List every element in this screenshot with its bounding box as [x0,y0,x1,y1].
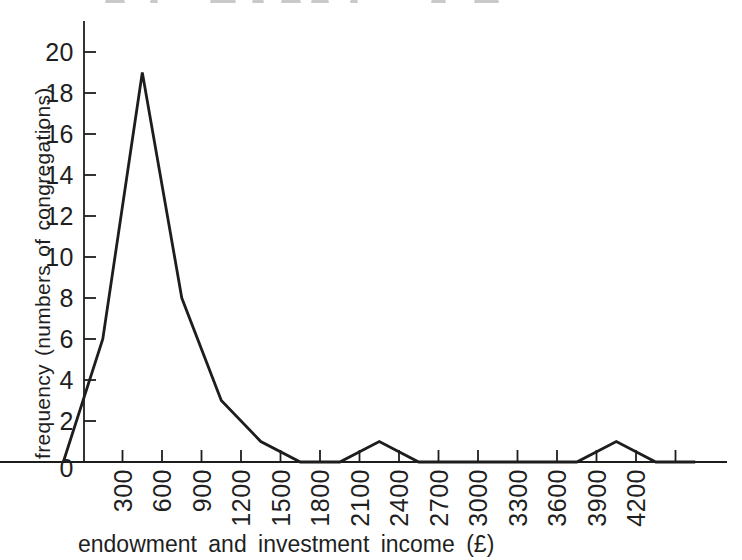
x-tick-label: 1800 [306,469,334,527]
y-tick-label: 20 [45,38,74,66]
frequency-polygon-chart: endowment and investment income (£) freq… [0,0,742,560]
y-tick-label: 8 [60,284,74,312]
y-tick-label: 2 [60,407,74,435]
x-tick-label: 900 [188,469,216,512]
scanned-figure-page: endowment and investment income (£) freq… [0,0,742,560]
x-tick-label: 3600 [543,469,571,527]
y-tick-label: 18 [45,79,74,107]
x-tick-label: 2700 [425,469,453,527]
x-tick-label: 1200 [227,469,255,527]
x-tick-label: 3300 [504,469,532,527]
x-tick-label: 2400 [385,469,413,527]
y-tick-label: 4 [60,366,74,394]
x-tick-label: 2100 [346,469,374,527]
y-tick-label: 0 [60,454,74,482]
y-tick-label: 14 [45,161,74,189]
x-tick-label: 600 [148,469,176,512]
y-tick-label: 16 [45,120,74,148]
x-tick-label: 1500 [267,469,295,527]
x-tick-label: 3000 [464,469,492,527]
y-tick-label: 6 [60,325,74,353]
x-tick-label: 3900 [583,469,611,527]
frequency-polygon-line [63,73,695,463]
y-tick-label: 10 [45,243,74,271]
x-tick-label: 4200 [622,469,650,527]
x-tick-label: 300 [109,469,137,512]
x-axis-title: endowment and investment income (£) [78,531,494,557]
y-tick-label: 12 [45,202,74,230]
